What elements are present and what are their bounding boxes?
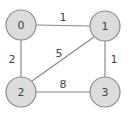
edge-weight-2-3: 8 [60,78,67,91]
node-3: 3 [90,77,120,107]
edge-1-2 [32,37,94,81]
edge-weight-1-2: 5 [56,47,63,60]
node-label: 0 [18,19,25,32]
node-label: 1 [102,20,109,33]
edge-0-1 [36,25,90,26]
node-2: 2 [6,77,36,107]
edge-weight-1-3: 1 [111,53,118,66]
node-0: 0 [6,10,36,40]
edge-weight-0-1: 1 [60,11,67,24]
node-1: 1 [90,11,120,41]
graph-diagram: 1 2 5 1 8 0 1 2 3 [0,0,129,113]
edge-weight-0-2: 2 [9,53,16,66]
node-label: 2 [18,86,25,99]
node-label: 3 [102,86,109,99]
